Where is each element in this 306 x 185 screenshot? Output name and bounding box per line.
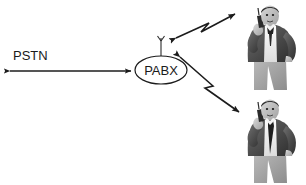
diagram-canvas: PSTN PABX bbox=[0, 0, 306, 185]
pabx-node-label: PABX bbox=[144, 63, 178, 78]
pabx-user-lower-link bbox=[180, 57, 239, 112]
pstn-label: PSTN bbox=[13, 48, 48, 63]
pabx-user-upper-link bbox=[176, 14, 235, 38]
mobile-user-upper bbox=[248, 6, 296, 91]
pabx-node[interactable]: PABX bbox=[135, 56, 187, 84]
mobile-user-lower bbox=[248, 100, 296, 184]
network-diagram: PSTN PABX bbox=[0, 0, 306, 185]
antenna-icon bbox=[158, 36, 165, 56]
